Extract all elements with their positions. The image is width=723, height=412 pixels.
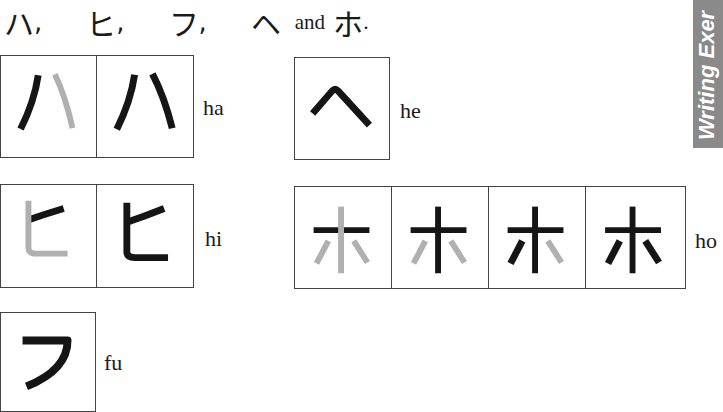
stroke-step-1	[295, 58, 389, 159]
kana-he: ヘ	[251, 0, 281, 44]
stroke-step-3	[489, 187, 586, 288]
ho-step2-glyph	[392, 187, 488, 288]
comma: ,	[116, 7, 124, 37]
stroke-order-fu	[0, 312, 96, 412]
comma: ,	[34, 7, 42, 37]
stroke-step-1	[1, 185, 97, 287]
romaji-fu: fu	[104, 350, 122, 376]
kana-ha: ハ	[4, 0, 34, 44]
romaji-hi: hi	[205, 226, 222, 252]
stroke-step-2	[392, 187, 489, 288]
period: .	[363, 9, 369, 35]
stroke-step-1	[295, 187, 392, 288]
stroke-step-1	[1, 56, 97, 157]
romaji-ha: ha	[203, 95, 224, 121]
and-text: and	[295, 10, 325, 35]
romaji-ho: ho	[695, 228, 717, 254]
stroke-order-hi	[0, 184, 194, 288]
kana-heading: ハ, ヒ, フ, ヘ and ホ.	[4, 2, 369, 42]
hi-step1-glyph	[1, 185, 96, 287]
comma: ,	[199, 7, 207, 37]
romaji-he: he	[400, 98, 421, 124]
side-tab-label: Writing Exer	[694, 11, 720, 140]
hi-step2-glyph	[97, 185, 193, 287]
stroke-step-1	[1, 313, 95, 411]
kana-hi: ヒ	[86, 0, 116, 44]
stroke-step-4	[586, 187, 683, 288]
he-step1-glyph	[295, 58, 389, 159]
kana-fu: フ	[169, 0, 199, 44]
ha-step1-glyph	[1, 56, 96, 157]
ho-step4-glyph	[586, 187, 683, 288]
ho-step1-glyph	[295, 187, 391, 288]
fu-step1-glyph	[1, 313, 95, 411]
ho-step3-glyph	[489, 187, 585, 288]
stroke-step-2	[97, 185, 193, 287]
section-side-tab: Writing Exer	[693, 0, 723, 148]
stroke-step-2	[97, 56, 193, 157]
kana-ho: ホ	[333, 0, 363, 44]
ha-step2-glyph	[97, 56, 193, 157]
stroke-order-he	[294, 57, 390, 160]
stroke-order-ha	[0, 55, 194, 158]
stroke-order-ho	[294, 186, 686, 289]
